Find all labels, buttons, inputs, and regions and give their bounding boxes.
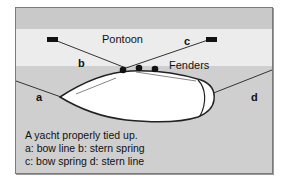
fender-icon [120,67,127,74]
caption-title: A yacht properly tied up. [25,129,145,142]
line-a-label: a [36,91,42,103]
top-band [16,8,272,29]
cleat-c-icon [206,37,217,42]
line-d-label: d [251,91,258,103]
cleat-b-icon [47,37,58,42]
line-b-label: b [78,57,85,69]
caption: A yacht properly tied up. a: bow line b:… [25,129,145,168]
caption-legend-cd: c: bow spring d: stern line [25,155,145,168]
fender-icon [152,66,159,73]
caption-legend-ab: a: bow line b: stern spring [25,142,145,155]
pontoon-band [16,29,272,66]
diagram-frame: Pontoon Fenders b c a d A yacht properly… [15,7,273,174]
pontoon-label: Pontoon [102,33,143,45]
fenders-label: Fenders [169,59,209,71]
fender-icon [136,65,143,72]
line-c-label: c [184,35,190,47]
